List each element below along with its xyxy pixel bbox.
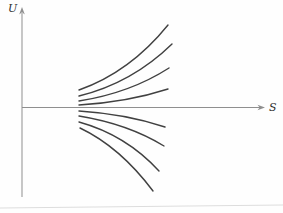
solution-curve-7 [79,122,159,171]
solution-curve-1 [79,25,168,90]
solution-curve-6 [79,116,164,146]
figure-canvas: U S [0,0,283,213]
solution-curve-4 [79,89,168,105]
x-axis-label: S [269,102,277,114]
figure-svg [0,0,283,213]
page-edge-line [0,205,283,208]
solution-curve-2 [79,44,172,96]
y-axis-label: U [8,3,17,15]
